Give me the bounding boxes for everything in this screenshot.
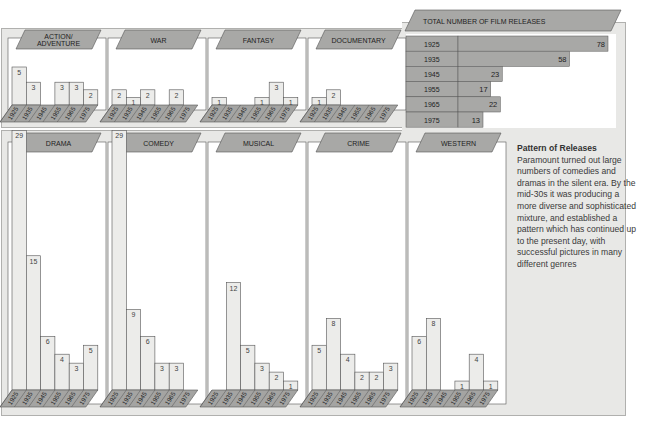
total-value: 22: [489, 100, 497, 109]
bar-value: 2: [374, 374, 378, 381]
bar: [112, 130, 126, 390]
total-bar: [458, 36, 608, 51]
bar-value: 4: [474, 356, 478, 363]
bar-value: 5: [89, 347, 93, 354]
bar-value: 6: [417, 338, 421, 345]
bar-value: 3: [389, 365, 393, 372]
genre-label: MUSICAL: [243, 140, 274, 147]
bar-value: 2: [89, 92, 93, 99]
bar-value: 2: [360, 374, 364, 381]
genre-label: DRAMA: [46, 140, 72, 147]
genre-label: DOCUMENTARY: [331, 37, 386, 44]
genre-label: WESTERN: [441, 140, 476, 147]
genre-chart-fantasy: FANTASY1131192519351945195519651975: [200, 30, 306, 122]
total-releases-chart: TOTAL NUMBER OF FILM RELEASES19257819355…: [405, 10, 621, 128]
total-value: 17: [479, 85, 487, 94]
bar-value: 29: [15, 132, 23, 139]
bar-value: 3: [174, 365, 178, 372]
genre-chart-action: ACTION/ADVENTURE533321925193519451955196…: [0, 30, 106, 122]
bar: [126, 309, 140, 390]
bar-value: 5: [246, 347, 250, 354]
bar-value: 3: [74, 84, 78, 91]
genre-label: WAR: [150, 37, 166, 44]
bar-value: 3: [31, 84, 35, 91]
genre-chart-war: WAR2122192519351945195519651975: [100, 30, 206, 122]
genre-chart-western: WESTERN68141192519351945195519651975: [400, 133, 506, 407]
bar-value: 6: [46, 338, 50, 345]
bar-value: 2: [174, 92, 178, 99]
bar-value: 8: [331, 320, 335, 327]
bar: [326, 318, 340, 390]
bar-value: 2: [146, 92, 150, 99]
bar-value: 3: [160, 365, 164, 372]
bar-value: 2: [331, 92, 335, 99]
bar-value: 3: [60, 84, 64, 91]
bar-value: 3: [260, 365, 264, 372]
total-title: TOTAL NUMBER OF FILM RELEASES: [423, 18, 546, 25]
total-value: 78: [597, 40, 605, 49]
total-year-label: 1975: [424, 117, 440, 124]
bar-value: 9: [131, 311, 135, 318]
genre-chart-musical: MUSICAL125321192519351945195519651975: [200, 133, 306, 407]
svg-text:ADVENTURE: ADVENTURE: [37, 40, 81, 47]
genre-chart-drama: DRAMA29156435192519351945195519651975: [0, 130, 106, 407]
bar-value: 29: [115, 132, 123, 139]
total-year-label: 1945: [424, 71, 440, 78]
bar: [426, 318, 440, 390]
total-year-label: 1965: [424, 101, 440, 108]
bar-value: 2: [117, 92, 121, 99]
genre-label: FANTASY: [243, 37, 275, 44]
total-year-label: 1955: [424, 86, 440, 93]
bar-value: 2: [274, 374, 278, 381]
bar-value: 1: [489, 383, 493, 390]
bar: [226, 283, 240, 390]
bar-value: 1: [289, 383, 293, 390]
bar-value: 8: [431, 320, 435, 327]
bar-value: 15: [30, 258, 38, 265]
bar-value: 4: [60, 356, 64, 363]
bar-value: 3: [274, 84, 278, 91]
genre-label: COMEDY: [143, 140, 174, 147]
bar-value: 12: [230, 285, 238, 292]
bar-value: 4: [346, 356, 350, 363]
total-value: 58: [558, 55, 566, 64]
bar-value: 6: [146, 338, 150, 345]
total-year-label: 1935: [424, 56, 440, 63]
bar: [26, 256, 40, 390]
genre-chart-comedy: COMEDY299633192519351945195519651975: [100, 130, 206, 407]
bar-value: 1: [460, 383, 464, 390]
bar-value: 5: [317, 347, 321, 354]
bar: [12, 130, 26, 390]
film-releases-infographic: ACTION/ADVENTURE533321925193519451955196…: [0, 0, 647, 428]
total-year-label: 1925: [424, 41, 440, 48]
genre-chart-crime: CRIME584223192519351945195519651975: [300, 133, 406, 407]
bar-value: 5: [17, 69, 21, 76]
bar-value: 3: [74, 365, 78, 372]
genre-chart-documentary: DOCUMENTARY12192519351945195519651975: [300, 30, 406, 122]
total-value: 23: [491, 70, 499, 79]
total-value: 13: [472, 116, 480, 125]
genre-label: ACTION/: [44, 33, 72, 40]
caption: Pattern of Releases Paramount turned out…: [517, 143, 637, 271]
caption-title: Pattern of Releases: [517, 143, 637, 155]
total-bar: [458, 51, 570, 66]
caption-body: Paramount turned out large numbers of co…: [517, 155, 637, 271]
genre-label: CRIME: [347, 140, 370, 147]
